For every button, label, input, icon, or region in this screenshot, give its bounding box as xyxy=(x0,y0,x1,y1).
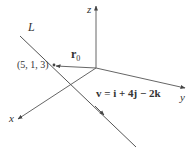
line-label: L xyxy=(28,21,35,33)
point-label: (5, 1, 3) xyxy=(17,60,49,70)
point-marker xyxy=(53,64,56,67)
z-axis-label: z xyxy=(87,4,91,15)
direction-vector-label: v = i + 4j − 2k xyxy=(96,88,161,99)
r0-vector xyxy=(56,66,96,68)
x-axis-label: x xyxy=(9,113,14,124)
y-axis xyxy=(96,68,185,88)
direction-arrow-on-L xyxy=(95,106,104,115)
y-axis-label: y xyxy=(180,92,185,103)
r0-label-sub: 0 xyxy=(76,54,80,63)
x-axis xyxy=(18,68,96,119)
r0-label: r0 xyxy=(71,48,80,63)
